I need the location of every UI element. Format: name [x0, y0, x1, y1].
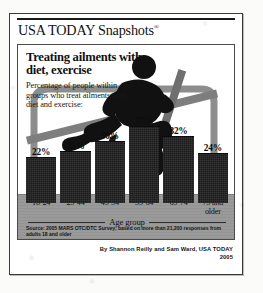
bar-group[interactable]: 37% [129, 121, 159, 203]
bar-rect [163, 136, 193, 203]
bar-group[interactable]: 24% [198, 121, 228, 203]
bar-rect [95, 141, 125, 204]
bar-value-label: 30% [95, 131, 125, 142]
snapshot-page: USA TODAY Snapshots® [0, 0, 263, 293]
brand-title: USA TODAY Snapshots® [18, 22, 159, 39]
bar-value-label: 22% [26, 147, 56, 158]
bar-series: 22% 25% 30% 37% [26, 121, 228, 203]
bar-rect [26, 157, 56, 203]
byline: By Shannon Reilly and Sam Ward, USA TODA… [100, 246, 233, 252]
bar-value-label: 24% [198, 143, 228, 154]
bar-value-label: 37% [129, 116, 159, 127]
masthead-rule [17, 18, 235, 20]
chart-headline: Treating ailments with diet, exercise [26, 51, 146, 78]
credit-block: By Shannon Reilly and Sam Ward, USA TODA… [100, 245, 233, 261]
masthead: USA TODAY Snapshots® [10, 14, 242, 44]
bar-rect [129, 126, 159, 203]
bar-group[interactable]: 22% [26, 121, 56, 203]
chart-subhead: Percentage of people within age groups w… [26, 81, 134, 110]
registered-mark-icon: ® [154, 23, 159, 31]
snapshot-card: USA TODAY Snapshots® [9, 13, 243, 275]
bar-value-label: 32% [163, 126, 193, 137]
chart-frame: Treating ailments with diet, exercise Pe… [17, 44, 235, 240]
bar-rect [198, 153, 228, 203]
bar-group[interactable]: 30% [95, 121, 125, 203]
brand-text: USA TODAY Snapshots [18, 22, 154, 38]
credit-year: 2005 [100, 253, 233, 261]
bar-group[interactable]: 25% [60, 121, 90, 203]
bar-rect [60, 151, 90, 203]
plot-area: 22% 25% 30% 37% [18, 121, 234, 229]
bar-group[interactable]: 32% [163, 121, 193, 203]
bar-value-label: 25% [60, 141, 90, 152]
